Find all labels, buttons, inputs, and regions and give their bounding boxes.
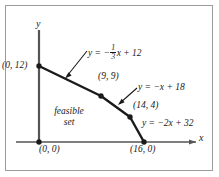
vertex-markers	[36, 63, 146, 144]
eq1-constant: 12	[132, 48, 142, 58]
point-label-0-12: (0, 12)	[2, 61, 27, 71]
point-label-0-0: (0, 0)	[39, 145, 60, 155]
leader-line-1	[67, 51, 87, 76]
eq1-fraction: 13	[110, 44, 116, 61]
eq1-sign: −	[103, 48, 109, 58]
vertex-dot-14-4	[127, 114, 132, 119]
feasible-set-line2: set	[64, 117, 75, 127]
point-label-14-4: (14, 4)	[133, 101, 158, 111]
plot-graphics	[0, 0, 219, 177]
point-label-16-0: (16, 0)	[130, 145, 155, 155]
eq1-denominator: 3	[110, 53, 116, 61]
feasible-boundary	[39, 66, 144, 142]
equation-label-2: y = −x + 18	[138, 83, 185, 93]
leader-arrow-1	[65, 72, 72, 78]
equation-label-1: y = −13x + 12	[88, 44, 142, 61]
feasible-set-line1: feasible	[54, 106, 84, 116]
vertex-dot-0-12	[36, 63, 41, 68]
vertex-dot-9-9	[98, 93, 103, 98]
x-axis-label: x	[199, 133, 203, 144]
equation-label-3: y = −2x + 32	[142, 119, 193, 129]
feasible-set-figure: y x (0, 12) (9, 9) (14, 4) (16, 0) (0, 0…	[0, 0, 219, 177]
feasible-set-label: feasible set	[45, 106, 93, 128]
point-label-9-9: (9, 9)	[98, 72, 119, 82]
y-axis-label: y	[36, 19, 40, 30]
